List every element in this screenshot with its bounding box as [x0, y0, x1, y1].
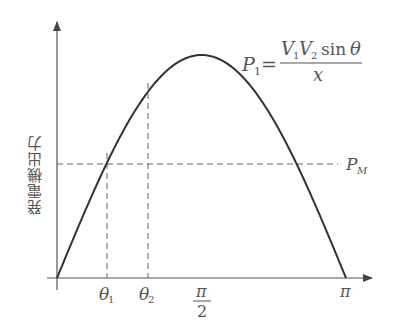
- y-axis-label-container: 発電機出力: [24, 120, 44, 230]
- svg-text:2: 2: [197, 302, 207, 321]
- svg-text:1: 1: [108, 294, 114, 305]
- svg-text:x: x: [313, 64, 323, 85]
- power-curve: [57, 55, 346, 278]
- power-angle-diagram: P 1 = V 1 V 2 sin θ x P M θ 1 θ 2 π 2 π: [0, 0, 396, 335]
- pm-label: P M: [345, 154, 368, 176]
- svg-text:2: 2: [148, 294, 154, 305]
- svg-text:sin: sin: [321, 39, 346, 59]
- svg-text:M: M: [356, 165, 368, 176]
- svg-text:2: 2: [311, 50, 317, 61]
- theta1-label: θ 1: [99, 284, 114, 305]
- formula-label: P 1 = V 1 V 2 sin θ x: [241, 38, 362, 85]
- svg-text:1: 1: [254, 65, 261, 78]
- svg-text:=: =: [261, 53, 277, 75]
- pi-label: π: [339, 282, 351, 301]
- svg-text:π: π: [195, 282, 207, 301]
- half-pi-label: π 2: [193, 282, 211, 321]
- theta2-label: θ 2: [139, 284, 154, 305]
- y-axis-label: 発電機出力: [24, 135, 45, 215]
- svg-text:θ: θ: [350, 38, 361, 59]
